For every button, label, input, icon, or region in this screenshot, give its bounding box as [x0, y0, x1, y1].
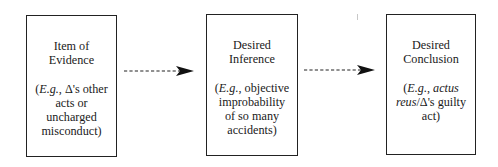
example-line: reus/Δ's guilty [387, 95, 475, 109]
example-line: act) [387, 109, 475, 123]
example-line: (E.g., actus [387, 81, 475, 95]
example-line: accidents) [207, 123, 297, 137]
scan-artifact-mark [357, 14, 358, 20]
node-item-of-evidence: Item of Evidence (E.g., Δ's other acts o… [26, 15, 117, 157]
node-desired-conclusion: Desired Conclusion (E.g., actus reus/Δ's… [386, 14, 476, 155]
title-line: Desired [387, 38, 475, 52]
node-example: (E.g., actus reus/Δ's guilty act) [387, 81, 475, 123]
title-line: Item of [27, 39, 116, 53]
dashed-arrow-inference-to-conclusion [304, 64, 375, 76]
node-example: (E.g., objective improbability of so man… [207, 81, 297, 137]
example-line: uncharged [27, 110, 116, 124]
example-line: (E.g., objective [207, 81, 297, 95]
example-line: (E.g., Δ's other [27, 82, 116, 96]
example-line: misconduct) [27, 124, 116, 138]
title-line: Evidence [27, 53, 116, 67]
arrow-right-icon [304, 64, 375, 76]
node-title: Item of Evidence [27, 39, 116, 67]
node-example: (E.g., Δ's other acts or uncharged misco… [27, 82, 116, 138]
example-line: acts or [27, 96, 116, 110]
arrow-right-icon [124, 65, 194, 77]
dashed-arrow-evidence-to-inference [124, 65, 194, 77]
example-line: of so many [207, 109, 297, 123]
node-desired-inference: Desired Inference (E.g., objective impro… [206, 14, 298, 156]
node-title: Desired Inference [207, 38, 297, 66]
title-line: Inference [207, 52, 297, 66]
example-line: improbability [207, 95, 297, 109]
title-line: Conclusion [387, 52, 475, 66]
node-title: Desired Conclusion [387, 38, 475, 66]
title-line: Desired [207, 38, 297, 52]
